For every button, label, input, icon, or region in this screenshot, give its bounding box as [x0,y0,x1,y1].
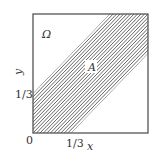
omega-label: Ω [41,28,51,41]
y-axis-label: y [12,68,25,76]
x-tick-label: 1/3 [66,137,84,150]
x-axis-label: x [87,140,94,153]
probability-diagram: Ω A 0 1/3 1/3 x y [0,0,163,165]
origin-label: 0 [26,134,33,147]
y-tick-label: 1/3 [15,88,33,101]
set-a-label: A [87,61,96,74]
hatch-line [0,0,163,153]
